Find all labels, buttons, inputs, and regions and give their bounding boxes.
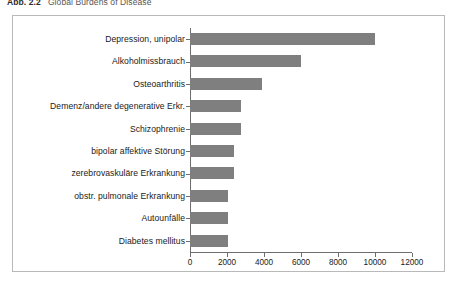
bar bbox=[190, 167, 234, 179]
bar bbox=[190, 33, 375, 45]
category-label: Schizophrenie bbox=[130, 118, 185, 140]
bar bbox=[190, 235, 228, 247]
y-axis-tick bbox=[186, 62, 190, 63]
x-axis-tick bbox=[301, 253, 302, 257]
bar bbox=[190, 212, 228, 224]
figure-caption: Abb. 2.2 Global Burdens of Disease bbox=[7, 0, 152, 8]
x-axis-tick-label: 10000 bbox=[364, 258, 387, 267]
category-label: Demenz/andere degenerative Erkr. bbox=[50, 95, 185, 117]
category-label: obstr. pulmonale Erkrankung bbox=[74, 185, 185, 207]
bar-row: zerebrovaskuläre Erkrankung bbox=[190, 162, 412, 184]
bar-row: Autounfälle bbox=[190, 207, 412, 229]
figure-caption-title: Global Burdens of Disease bbox=[48, 0, 152, 7]
y-axis-tick bbox=[186, 129, 190, 130]
bar bbox=[190, 100, 241, 112]
figure-caption-number: Abb. 2.2 bbox=[7, 0, 41, 7]
y-axis-tick bbox=[186, 241, 190, 242]
bar-row: Osteoarthritis bbox=[190, 73, 412, 95]
bar-row: Demenz/andere degenerative Erkr. bbox=[190, 95, 412, 117]
bar-row: Alkoholmissbrauch bbox=[190, 50, 412, 72]
x-axis-tick bbox=[227, 253, 228, 257]
x-axis-tick bbox=[412, 253, 413, 257]
y-axis-tick bbox=[186, 84, 190, 85]
x-axis-tick-label: 12000 bbox=[401, 258, 424, 267]
category-label: zerebrovaskuläre Erkrankung bbox=[71, 162, 185, 184]
category-label: Autounfälle bbox=[141, 207, 185, 229]
bar-row: Diabetes mellitus bbox=[190, 230, 412, 252]
y-axis-tick bbox=[186, 218, 190, 219]
y-axis-tick bbox=[186, 106, 190, 107]
bar bbox=[190, 78, 262, 90]
y-axis-tick bbox=[186, 174, 190, 175]
category-label: bipolar affektive Störung bbox=[91, 140, 185, 162]
x-axis-tick-label: 4000 bbox=[255, 258, 273, 267]
x-axis-tick bbox=[190, 253, 191, 257]
x-axis-tick bbox=[264, 253, 265, 257]
category-label: Diabetes mellitus bbox=[119, 230, 185, 252]
plot-area: Depression, unipolarAlkoholmissbrauchOst… bbox=[13, 16, 444, 271]
bar bbox=[190, 55, 301, 67]
bar-row: Depression, unipolar bbox=[190, 28, 412, 50]
y-axis-tick bbox=[186, 39, 190, 40]
category-label: Depression, unipolar bbox=[105, 28, 185, 50]
bar-row: bipolar affektive Störung bbox=[190, 140, 412, 162]
category-label: Alkoholmissbrauch bbox=[112, 50, 185, 72]
bar-series: Depression, unipolarAlkoholmissbrauchOst… bbox=[190, 28, 412, 252]
x-axis-tick-label: 6000 bbox=[292, 258, 310, 267]
category-label: Osteoarthritis bbox=[133, 73, 185, 95]
y-axis-tick bbox=[186, 196, 190, 197]
x-axis-tick bbox=[375, 253, 376, 257]
x-axis-tick-label: 2000 bbox=[218, 258, 236, 267]
bar-row: obstr. pulmonale Erkrankung bbox=[190, 185, 412, 207]
bar bbox=[190, 145, 234, 157]
bar-row: Schizophrenie bbox=[190, 118, 412, 140]
x-axis-tick bbox=[338, 253, 339, 257]
bar bbox=[190, 123, 241, 135]
x-axis-tick-label: 0 bbox=[188, 258, 193, 267]
y-axis-tick bbox=[186, 151, 190, 152]
chart-frame: Depression, unipolarAlkoholmissbrauchOst… bbox=[12, 15, 445, 272]
x-axis-tick-label: 8000 bbox=[329, 258, 347, 267]
bar bbox=[190, 190, 228, 202]
